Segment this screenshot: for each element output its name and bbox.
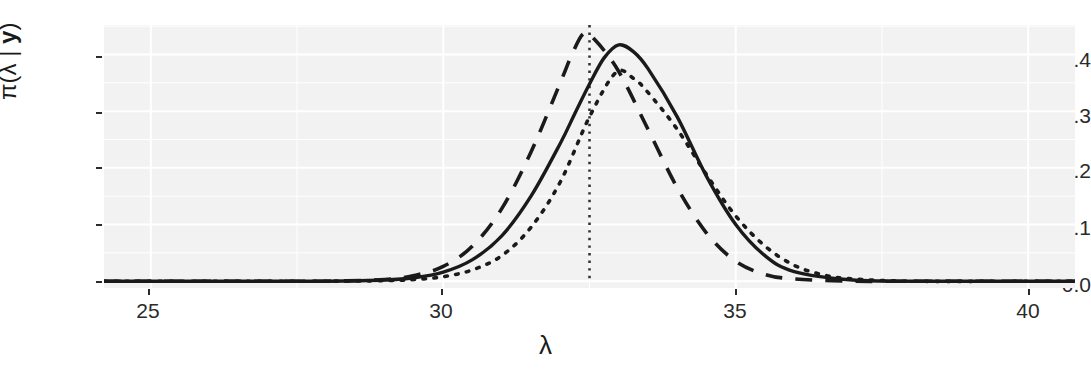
x-tick-mark-3 <box>1028 289 1030 295</box>
x-tick-label-1: 30 <box>401 300 481 321</box>
plot-canvas <box>104 25 1075 288</box>
y-axis-title: π(λ | y) <box>0 23 22 100</box>
y-axis-title-bold-y: y <box>0 31 21 44</box>
plot-panel <box>104 25 1075 288</box>
x-tick-label-0: 25 <box>108 300 188 321</box>
x-tick-mark-1 <box>441 289 443 295</box>
y-tick-mark-0 <box>96 281 102 283</box>
y-axis-title-suffix: ) <box>0 23 21 31</box>
y-tick-mark-4 <box>96 56 102 58</box>
y-tick-mark-1 <box>96 224 102 226</box>
y-tick-mark-2 <box>96 167 102 169</box>
x-tick-label-3: 40 <box>988 300 1068 321</box>
y-tick-mark-3 <box>96 112 102 114</box>
x-tick-mark-0 <box>148 289 150 295</box>
x-tick-mark-2 <box>735 289 737 295</box>
x-axis-title: λ <box>0 330 1091 361</box>
x-tick-label-2: 35 <box>695 300 775 321</box>
y-axis-title-prefix: π(λ | <box>0 44 21 100</box>
density-plot-figure: π(λ | y) 0.0 0.1 0.2 0.3 0.4 25 30 35 40… <box>0 0 1091 373</box>
